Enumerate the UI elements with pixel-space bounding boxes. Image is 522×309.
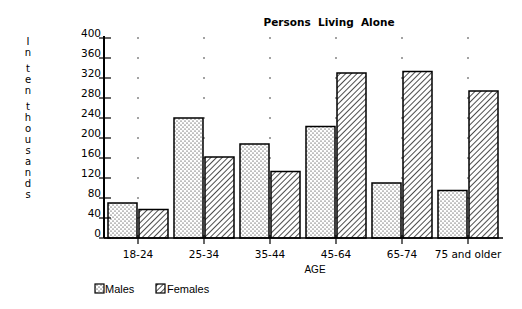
bar-males-65-74 (372, 183, 401, 238)
bar-females-65-74 (403, 72, 432, 239)
x-axis-label: AGE (304, 264, 325, 275)
x-tick-label: 18-24 (123, 248, 154, 260)
y-axis-label-letter: u (25, 134, 31, 145)
y-axis-label-letter: t (26, 101, 30, 112)
y-axis-label-letter: s (25, 145, 30, 156)
y-axis-label-letter: n (25, 85, 31, 96)
y-tick-label: 400 (81, 27, 101, 39)
bar-chart: Persons Living Alone Intenthousands 0408… (0, 0, 522, 309)
bar-females-75-and-older (469, 91, 498, 238)
bar-males-25-34 (174, 118, 203, 238)
x-tick-label: 75 and older (435, 248, 502, 260)
y-axis-label-letter: t (26, 63, 30, 74)
bar-females-25-34 (205, 157, 234, 238)
chart-title: Persons Living Alone (263, 16, 394, 28)
y-tick-label: 40 (88, 207, 101, 219)
y-tick-label: 200 (81, 127, 101, 139)
y-tick-label: 320 (81, 67, 101, 79)
hatch-swatch-icon (156, 284, 165, 293)
y-tick-label: 240 (81, 107, 101, 119)
legend: Males Females (95, 283, 210, 295)
bar-females-35-44 (271, 172, 300, 239)
x-tick-label: 65-74 (387, 248, 418, 260)
dots-swatch-icon (95, 284, 104, 293)
y-axis-label-letter: n (25, 167, 31, 178)
legend-label-females: Females (167, 283, 210, 295)
y-tick-label: 0 (94, 227, 101, 239)
bar-males-35-44 (240, 144, 269, 238)
y-axis-label-letter: a (25, 156, 31, 167)
x-tick-label: 25-34 (189, 248, 220, 260)
legend-item-females: Females (156, 283, 210, 295)
y-tick-label: 280 (81, 87, 101, 99)
y-axis-label: Intenthousands (25, 36, 31, 200)
y-tick-label: 80 (88, 187, 101, 199)
y-tick-label: 120 (81, 167, 101, 179)
y-tick-label: 160 (81, 147, 101, 159)
bar-females-45-64 (337, 73, 366, 238)
y-axis-label-letter: I (27, 36, 30, 47)
y-axis-label-letter: n (25, 47, 31, 58)
x-tick-label: 45-64 (321, 248, 352, 260)
bar-females-18-24 (139, 210, 168, 239)
bar-males-75-and-older (438, 191, 467, 239)
y-axis-label-letter: h (25, 112, 31, 123)
bar-males-18-24 (108, 203, 137, 238)
legend-label-males: Males (105, 283, 135, 295)
y-axis-label-letter: e (25, 74, 31, 85)
y-ticks: 04080120160200240280320360400 (81, 27, 111, 239)
y-tick-label: 360 (81, 47, 101, 59)
bars (108, 72, 498, 239)
x-tick-label: 35-44 (255, 248, 286, 260)
legend-item-males: Males (95, 283, 135, 295)
y-axis-label-letter: s (25, 189, 30, 200)
y-axis-label-letter: o (25, 123, 31, 134)
bar-males-45-64 (306, 127, 335, 239)
y-axis-label-letter: d (25, 178, 31, 189)
